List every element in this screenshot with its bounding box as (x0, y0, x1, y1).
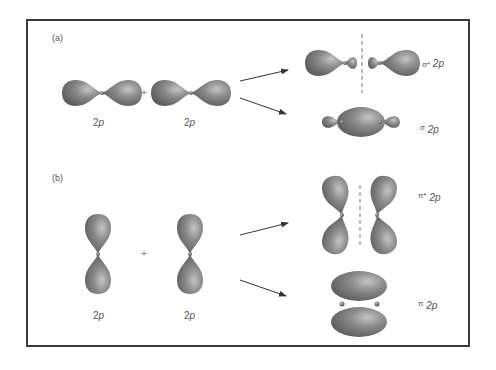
orbital-label-2p: 2p (93, 310, 104, 321)
sigma-star-orbital (305, 34, 420, 93)
arrow-to-pi-star (240, 223, 288, 235)
mo-label-pi-2p: π 2p (418, 299, 437, 311)
p-orbital-vertical-left (85, 214, 111, 294)
p-orbital-horizontal-left (62, 80, 142, 106)
sigma-bonding-orbital (322, 107, 400, 137)
plus-operator-a: + (141, 87, 147, 98)
pi-star-orbital (319, 173, 400, 257)
panel-label-b: (b) (52, 173, 63, 183)
mo-label-pi-star-2p: π* 2p (418, 191, 441, 203)
orbital-diagram (0, 0, 496, 370)
mo-label-sigma-star-2p: σ* 2p (422, 58, 444, 69)
arrow-to-sigma (240, 98, 286, 114)
orbital-label-2p: 2p (184, 117, 195, 128)
arrow-to-sigma-star (240, 70, 288, 81)
panel-label-a: (a) (52, 33, 63, 43)
mo-label-sigma-2p: σ 2p (420, 123, 439, 135)
arrow-to-pi (240, 280, 286, 296)
orbital-label-2p: 2p (93, 117, 104, 128)
p-orbital-horizontal-right (151, 80, 231, 106)
plus-operator-b: + (141, 248, 147, 259)
orbital-label-2p: 2p (184, 310, 195, 321)
pi-bonding-orbital (331, 271, 387, 337)
p-orbital-vertical-right (177, 214, 203, 294)
